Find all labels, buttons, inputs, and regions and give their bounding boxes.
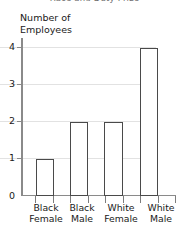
bar-white-female[interactable] <box>104 122 123 196</box>
y-tick-label-3: 3 <box>0 78 15 89</box>
bar-chart-figure: Race and Duty Prize Number of Employees … <box>0 0 189 236</box>
x-category-label-white-female: White Female <box>98 202 144 224</box>
bar-white-male[interactable] <box>140 48 158 196</box>
x-category-label-white-male: White Male <box>139 202 183 224</box>
plot-area <box>22 47 175 196</box>
chart-title: Race and Duty Prize <box>0 0 189 3</box>
y-tick-label-2: 2 <box>0 115 15 126</box>
y-tick-label-4: 4 <box>0 41 15 52</box>
y-tick-label-0: 0 <box>0 190 15 201</box>
y-axis-label: Number of Employees <box>20 12 72 35</box>
x-category-label-black-male: Black Male <box>61 202 103 224</box>
bar-black-male[interactable] <box>70 122 88 196</box>
y-tick-label-1: 1 <box>0 152 15 163</box>
bar-black-female[interactable] <box>36 159 54 196</box>
